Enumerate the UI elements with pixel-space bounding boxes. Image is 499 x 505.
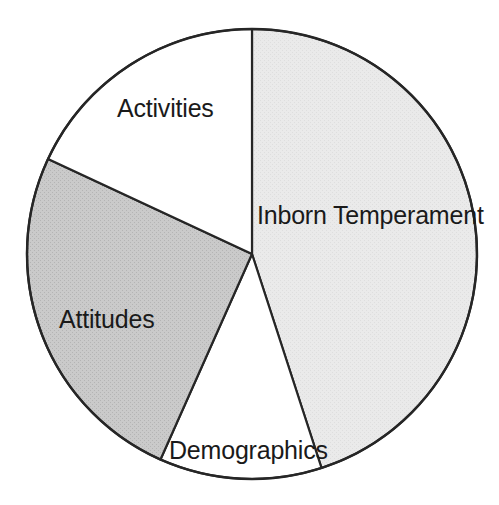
pie-chart-figure: Inborn Temperament Demographics Attitude… <box>0 0 499 505</box>
pie-chart-svg <box>0 0 499 505</box>
pie-slice-label-attitudes: Attitudes <box>59 307 154 332</box>
pie-slice-label-activities: Activities <box>117 96 214 121</box>
pie-slices-group <box>27 29 477 479</box>
pie-slice-label-demographics: Demographics <box>169 438 328 463</box>
pie-slice-label-inborn-temperament: Inborn Temperament <box>257 203 484 228</box>
